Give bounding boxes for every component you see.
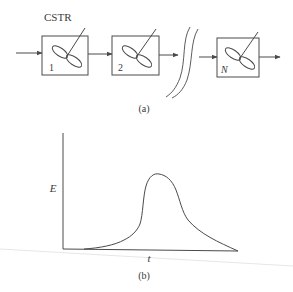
series-break-marks [166, 27, 198, 98]
cstr-label: CSTR [44, 11, 72, 23]
y-axis-label: E [49, 182, 57, 194]
diagram-canvas: CSTR 1 2 [0, 0, 293, 292]
caption-b: (b) [138, 270, 150, 282]
x-axis [63, 249, 238, 251]
figure-a-reactor-series: CSTR 1 2 [16, 11, 280, 115]
impeller-icon [120, 29, 156, 69]
reactor-n-label: N [220, 64, 229, 75]
e-curve [84, 174, 238, 251]
reactor-1-label: 1 [49, 62, 54, 73]
reactor-1: 1 [42, 28, 88, 75]
reactor-n: N [217, 32, 259, 77]
reactor-2-label: 2 [118, 62, 123, 73]
impeller-icon [50, 28, 85, 69]
figure-b-rtd-plot: E t (b) [49, 133, 238, 282]
reactor-2: 2 [112, 29, 159, 75]
caption-a: (a) [138, 103, 149, 115]
